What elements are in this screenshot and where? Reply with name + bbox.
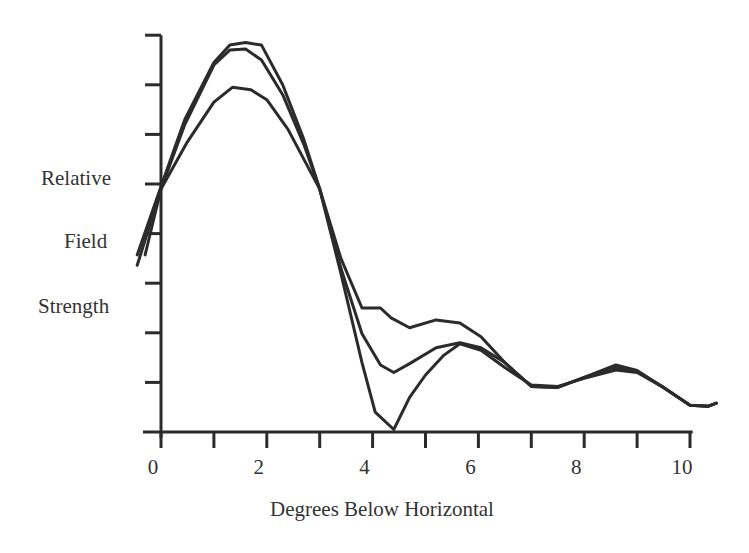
x-tick-labels: 0246810 (148, 455, 693, 479)
y-axis-title-line-1: Relative (41, 166, 111, 191)
series-line-2 (137, 49, 716, 406)
chart: 0246810 Degrees Below Horizontal (0, 0, 749, 553)
x-tick-label: 2 (254, 455, 265, 479)
x-tick-label: 4 (359, 455, 370, 479)
x-tick-label: 10 (672, 455, 693, 479)
series-layer (137, 43, 716, 430)
x-tick-label: 8 (571, 455, 582, 479)
x-axis-title: Degrees Below Horizontal (270, 497, 494, 521)
x-tick-label: 0 (148, 455, 159, 479)
y-axis-title-line-2: Field (64, 229, 107, 254)
y-axis-title-line-3: Strength (38, 294, 109, 319)
series-line-3 (145, 87, 716, 429)
x-tick-label: 6 (465, 455, 476, 479)
